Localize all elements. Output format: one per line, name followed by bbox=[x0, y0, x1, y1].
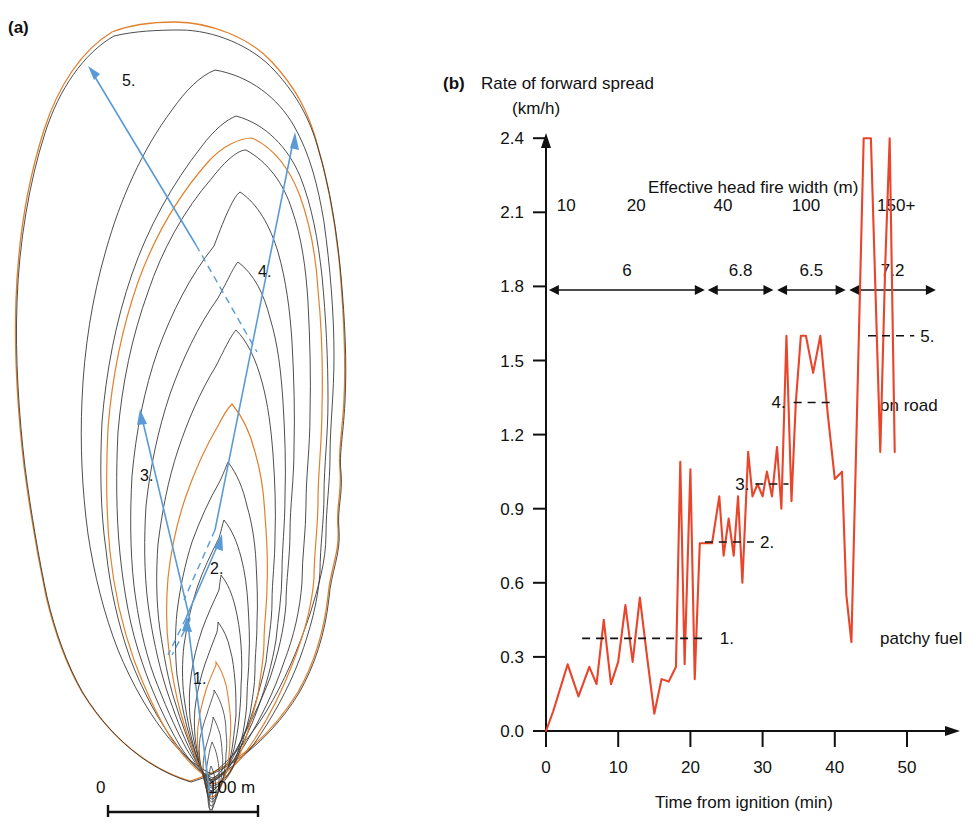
segment-arrow-left bbox=[849, 285, 859, 295]
head-fire-width-value: 6 bbox=[622, 261, 631, 280]
head-fire-width-category: 150+ bbox=[877, 196, 915, 215]
segment-arrow-left bbox=[708, 285, 718, 295]
head-fire-width-category: 40 bbox=[713, 196, 732, 215]
x-axis-arrowhead bbox=[945, 726, 960, 736]
segment-arrow-right bbox=[836, 285, 846, 295]
head-fire-width-value: 6.8 bbox=[729, 261, 753, 280]
head-fire-width-category: 10 bbox=[557, 196, 576, 215]
y-tick-label: 1.2 bbox=[500, 426, 524, 445]
segment-arrow-right bbox=[695, 285, 705, 295]
reference-label-4: 4. bbox=[771, 393, 785, 412]
chart-plot-area: 0.00.30.60.91.21.51.82.12.40102030405010… bbox=[0, 0, 979, 828]
y-tick-label: 1.8 bbox=[500, 277, 524, 296]
y-tick-label: 1.5 bbox=[500, 352, 524, 371]
x-tick-label: 10 bbox=[609, 758, 628, 777]
x-tick-label: 50 bbox=[898, 758, 917, 777]
reference-label-1: 1. bbox=[720, 629, 734, 648]
x-tick-label: 40 bbox=[825, 758, 844, 777]
head-fire-width-value: 6.5 bbox=[800, 261, 824, 280]
x-tick-label: 30 bbox=[753, 758, 772, 777]
y-tick-label: 0.3 bbox=[500, 648, 524, 667]
segment-arrow-left bbox=[549, 285, 559, 295]
head-fire-width-category: 20 bbox=[627, 196, 646, 215]
segment-arrow-right bbox=[926, 285, 936, 295]
y-tick-label: 0.9 bbox=[500, 500, 524, 519]
reference-label-5: 5. bbox=[920, 327, 934, 346]
x-tick-label: 0 bbox=[541, 758, 550, 777]
y-tick-label: 0.0 bbox=[500, 722, 524, 741]
reference-label-3: 3. bbox=[735, 475, 749, 494]
segment-arrow-right bbox=[763, 285, 773, 295]
y-tick-label: 2.4 bbox=[500, 129, 524, 148]
y-tick-label: 0.6 bbox=[500, 574, 524, 593]
y-axis-arrowhead bbox=[541, 133, 551, 148]
head-fire-width-category: 100 bbox=[792, 196, 820, 215]
y-tick-label: 2.1 bbox=[500, 203, 524, 222]
reference-label-2: 2. bbox=[760, 533, 774, 552]
x-tick-label: 20 bbox=[681, 758, 700, 777]
segment-arrow-left bbox=[777, 285, 787, 295]
